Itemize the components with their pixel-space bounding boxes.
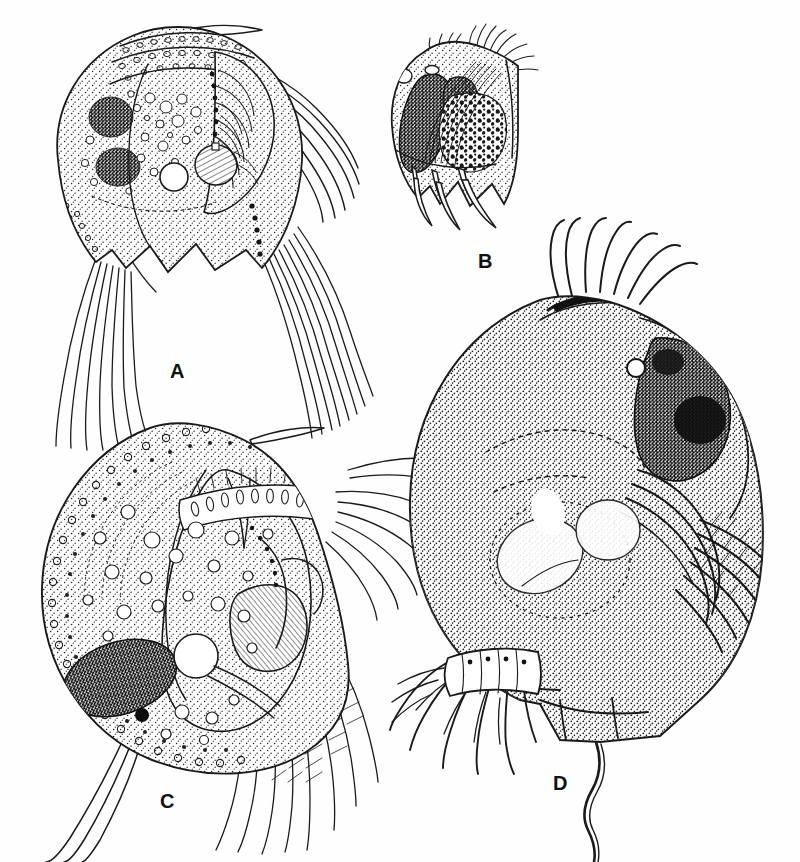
plate-svg: A [0,0,800,862]
panel-a-ovary-lower [96,148,140,186]
panel-a-central-vacuole [160,163,188,191]
panel-label-d: D [553,772,568,794]
panel-label-a: A [170,360,185,382]
panel-label-c: C [160,790,175,812]
panel-d-limb-base [445,649,541,696]
panel-c-ovary-nodule [135,708,149,722]
panel-b-ocellus [425,66,439,75]
panel-d-ocellus [627,359,645,377]
panel-c-large-globule [174,634,218,678]
panel-a-ovary-upper [89,97,133,137]
panel-d-eye-core [674,396,726,444]
panel-c-hatched-appendage [230,585,307,672]
illustration-plate: A [0,0,800,862]
panel-d-vacuole [576,500,640,560]
panel-label-b: B [478,250,493,272]
